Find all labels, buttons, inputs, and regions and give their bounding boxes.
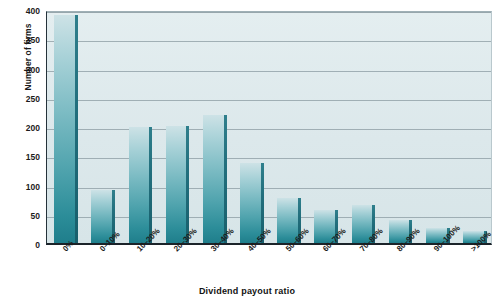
y-tick-label: 400 — [0, 6, 40, 16]
bar — [203, 115, 224, 243]
y-tick-label: 200 — [0, 123, 40, 133]
bar-slot — [426, 12, 447, 243]
plot-area — [46, 11, 492, 245]
y-tick-label: 350 — [0, 35, 40, 45]
bar-slot — [277, 12, 298, 243]
bar-shadow-edge — [75, 15, 78, 243]
bar — [166, 126, 187, 243]
x-axis-tick-labels: 0%0–10%10–20%20–30%30–40%40–50%50–60%60–… — [46, 247, 492, 287]
y-tick-label: 250 — [0, 94, 40, 104]
bar-slot — [54, 12, 75, 243]
bar-shadow-edge — [149, 127, 152, 243]
bar-slot — [91, 12, 112, 243]
y-tick-label: 100 — [0, 182, 40, 192]
bar-slot — [129, 12, 150, 243]
chart-figure: Number of firms 050100150200250300350400… — [0, 0, 494, 303]
bar-shadow-edge — [186, 126, 189, 243]
bar-slot — [166, 12, 187, 243]
y-tick-label: 150 — [0, 152, 40, 162]
y-tick-label: 300 — [0, 65, 40, 75]
bar-shadow-edge — [224, 115, 227, 243]
bar-series — [47, 12, 491, 243]
bar-slot — [389, 12, 410, 243]
x-axis-title: Dividend payout ratio — [0, 286, 494, 296]
bar-slot — [240, 12, 261, 243]
y-tick-label: 50 — [0, 211, 40, 221]
bar — [240, 163, 261, 243]
bar — [54, 15, 75, 243]
y-axis-tick-labels: 050100150200250300350400 — [0, 0, 44, 303]
y-tick-label: 0 — [0, 240, 40, 250]
bar — [129, 127, 150, 243]
bar-slot — [203, 12, 224, 243]
bar-slot — [314, 12, 335, 243]
bar-slot — [463, 12, 484, 243]
bar-slot — [352, 12, 373, 243]
